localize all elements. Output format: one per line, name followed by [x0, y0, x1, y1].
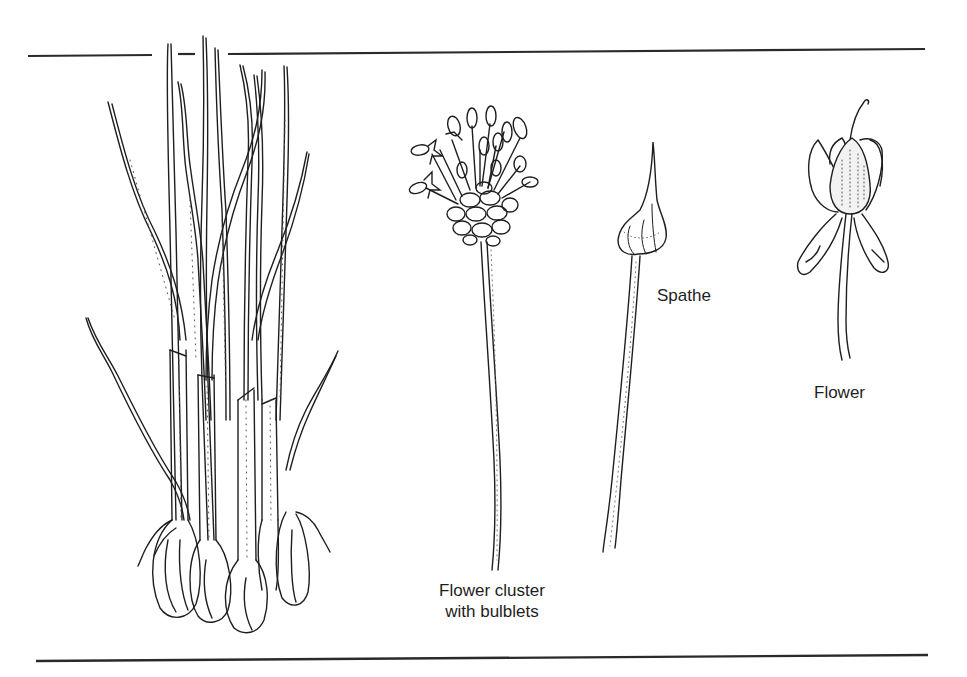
- leaves: [86, 36, 338, 540]
- label-flower-cluster-line1: Flower cluster: [412, 580, 572, 601]
- label-spathe: Spathe: [657, 285, 711, 306]
- flower-cluster-drawing: [408, 106, 538, 570]
- plant-with-bulbs: [86, 36, 338, 633]
- label-spathe-text: Spathe: [657, 286, 711, 305]
- label-flower-text: Flower: [814, 383, 865, 402]
- label-flower-cluster-line2: with bulblets: [412, 601, 572, 622]
- spathe-drawing: [603, 142, 666, 552]
- illustration-drawing: [0, 0, 967, 677]
- bulbs: [138, 512, 330, 633]
- label-flower-cluster: Flower cluster with bulblets: [412, 580, 572, 622]
- flower-drawing: [798, 100, 889, 360]
- bulblets: [447, 182, 518, 246]
- flower-buds: [408, 106, 538, 198]
- label-flower: Flower: [814, 382, 865, 403]
- top-rule: [28, 49, 925, 56]
- bottom-rule: [36, 655, 928, 661]
- botanical-figure: Flower cluster with bulblets Spathe Flow…: [0, 0, 967, 677]
